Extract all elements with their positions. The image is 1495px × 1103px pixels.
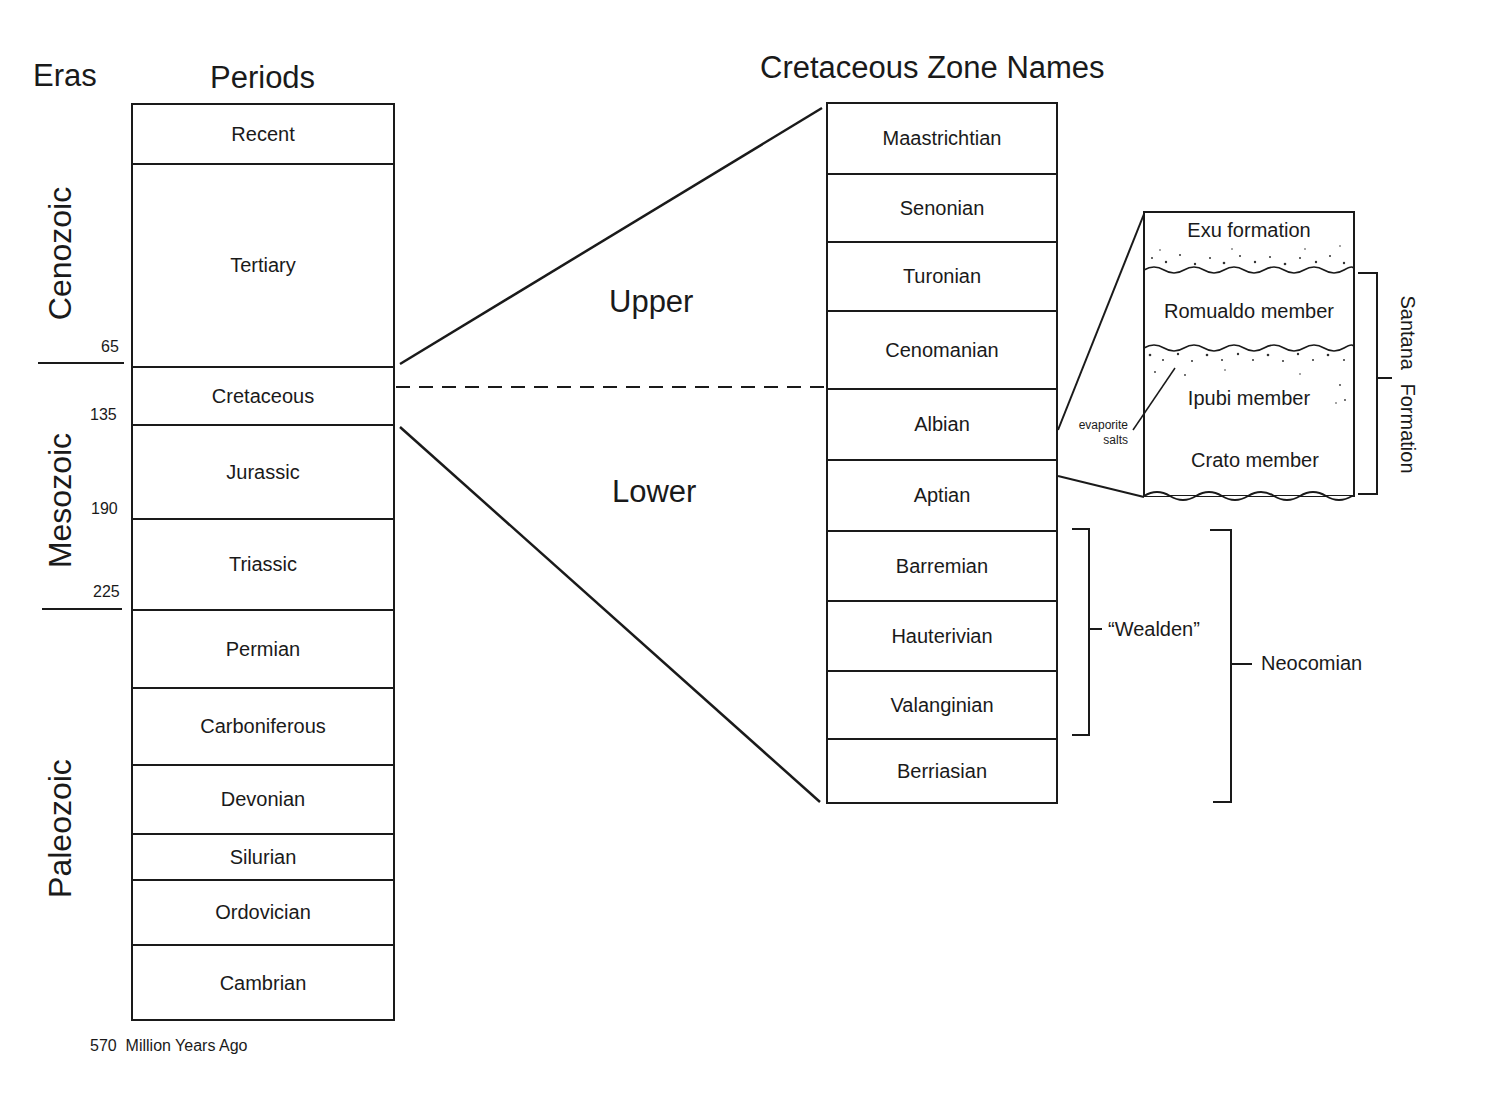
unit-exu-formation: Exu formation [1144, 219, 1354, 242]
zone-senonian: Senonian [828, 173, 1056, 241]
zone-aptian: Aptian [828, 459, 1056, 530]
lower-label: Lower [612, 474, 696, 510]
zone-barremian: Barremian [828, 530, 1056, 600]
upper-label: Upper [609, 284, 693, 320]
zone-berriasian: Berriasian [828, 738, 1056, 802]
neocomian-label: Neocomian [1261, 652, 1362, 675]
zone-cenomanian: Cenomanian [828, 310, 1056, 388]
zone-valanginian: Valanginian [828, 670, 1056, 738]
unit-romualdo-member: Romualdo member [1144, 300, 1354, 323]
unit-ipubi-member: Ipubi member [1144, 387, 1354, 410]
santana-formation-label: Santana Formation [1396, 285, 1419, 485]
annotation-line-2: salts [1066, 433, 1128, 448]
zone-maastrichtian: Maastrichtian [828, 104, 1056, 173]
zone-hauterivian: Hauterivian [828, 600, 1056, 670]
wealden-label: “Wealden” [1108, 618, 1200, 641]
annotation-line-1: evaporite [1066, 418, 1128, 433]
connector-lines [0, 0, 1495, 1103]
zone-turonian: Turonian [828, 241, 1056, 310]
zone-albian: Albian [828, 388, 1056, 459]
evaporite-annotation: evaporite salts [1066, 418, 1128, 448]
zones-column: Maastrichtian Senonian Turonian Cenomani… [826, 102, 1058, 804]
unit-crato-member: Crato member [1150, 449, 1360, 472]
